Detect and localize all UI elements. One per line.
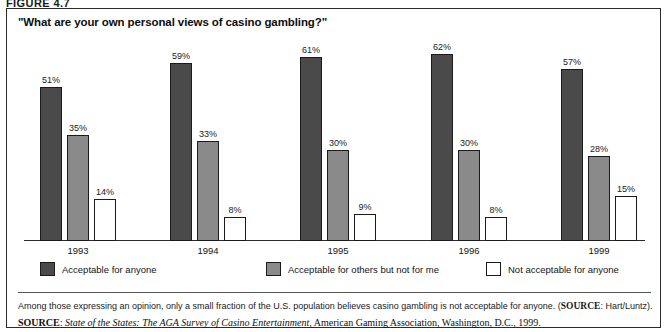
legend-swatch-icon xyxy=(266,262,281,276)
bar-value-label: 51% xyxy=(42,75,60,85)
bar-group-1993: 51%35%14%1993 xyxy=(40,33,116,241)
bar-value-label: 62% xyxy=(433,42,451,52)
figure-frame: "What are your own personal views of cas… xyxy=(6,8,661,328)
legend-swatch-icon xyxy=(40,262,55,276)
bar-rect xyxy=(588,156,610,241)
source-title-italic: State of the States: The AGA Survey of C… xyxy=(65,317,309,328)
bar-group-1994: 59%33%8%1994 xyxy=(170,33,246,241)
bar-value-label: 28% xyxy=(590,144,608,154)
bar-rect xyxy=(94,199,116,241)
bar-rect xyxy=(224,217,246,241)
bar-rect xyxy=(197,141,219,241)
bar-value-label: 30% xyxy=(460,138,478,148)
bar-value-label: 59% xyxy=(172,51,190,61)
footnote-source-caps: SOURCE xyxy=(561,301,601,311)
bar-1995-series-0: 61% xyxy=(300,33,322,241)
bar-1994-series-1: 33% xyxy=(197,33,219,241)
bar-value-label: 61% xyxy=(302,45,320,55)
footnote-body: Among those expressing an opinion, only … xyxy=(18,301,561,311)
bar-1996-series-1: 30% xyxy=(458,33,480,241)
bar-rect xyxy=(40,87,62,241)
bar-group-1996: 62%30%8%1996 xyxy=(431,33,507,241)
bar-1999-series-2: 15% xyxy=(615,33,637,241)
bar-rect xyxy=(300,57,322,241)
x-axis-tick-label: 1995 xyxy=(300,245,376,256)
legend-label: Not acceptable for anyone xyxy=(508,264,619,275)
bar-1993-series-1: 35% xyxy=(67,33,89,241)
x-axis-tick-label: 1994 xyxy=(170,245,246,256)
bar-rect xyxy=(561,69,583,241)
bar-value-label: 8% xyxy=(228,205,241,215)
legend-item-1: Acceptable for others but not for me xyxy=(266,262,439,276)
bar-group-1999: 57%28%15%1999 xyxy=(561,33,637,241)
x-axis-tick-label: 1993 xyxy=(40,245,116,256)
bar-rect xyxy=(67,135,89,241)
source-caps: SOURCE xyxy=(18,317,60,328)
bar-group-1995: 61%30%9%1995 xyxy=(300,33,376,241)
source-rest: , American Gaming Association, Washingto… xyxy=(309,317,541,328)
bar-value-label: 14% xyxy=(96,187,114,197)
legend-item-0: Acceptable for anyone xyxy=(40,262,157,276)
bar-value-label: 57% xyxy=(563,57,581,67)
bar-1993-series-0: 51% xyxy=(40,33,62,241)
legend-swatch-icon xyxy=(486,262,501,276)
bar-value-label: 9% xyxy=(358,202,371,212)
bar-rect xyxy=(458,150,480,241)
bar-1994-series-2: 8% xyxy=(224,33,246,241)
bar-rect xyxy=(485,217,507,241)
source-citation: SOURCE: State of the States: The AGA Sur… xyxy=(18,317,658,329)
bar-chart-plot-area: 51%35%14%199359%33%8%199461%30%9%199562%… xyxy=(18,33,651,241)
bar-rect xyxy=(170,63,192,241)
bar-1999-series-1: 28% xyxy=(588,33,610,241)
bar-value-label: 30% xyxy=(329,138,347,148)
bar-value-label: 33% xyxy=(199,129,217,139)
chart-legend: Acceptable for anyoneAcceptable for othe… xyxy=(18,262,651,284)
bar-value-label: 15% xyxy=(617,184,635,194)
bar-1996-series-0: 62% xyxy=(431,33,453,241)
bar-rect xyxy=(615,196,637,241)
legend-label: Acceptable for others but not for me xyxy=(288,264,439,275)
bar-1994-series-0: 59% xyxy=(170,33,192,241)
bar-1999-series-0: 57% xyxy=(561,33,583,241)
footnote-text: Among those expressing an opinion, only … xyxy=(18,300,654,312)
bar-rect xyxy=(327,150,349,241)
chart-title: "What are your own personal views of cas… xyxy=(18,16,327,28)
legend-label: Acceptable for anyone xyxy=(62,264,157,275)
bar-value-label: 35% xyxy=(69,123,87,133)
bar-value-label: 8% xyxy=(489,205,502,215)
bar-1995-series-2: 9% xyxy=(354,33,376,241)
footnote-source-rest: : Hart/Luntz). xyxy=(600,301,652,311)
x-axis-tick-label: 1999 xyxy=(561,245,637,256)
bar-1993-series-2: 14% xyxy=(94,33,116,241)
bar-rect xyxy=(354,214,376,241)
bar-rect xyxy=(431,54,453,241)
legend-item-2: Not acceptable for anyone xyxy=(486,262,619,276)
footer-divider xyxy=(18,292,651,293)
bar-1996-series-2: 8% xyxy=(485,33,507,241)
x-axis-tick-label: 1996 xyxy=(431,245,507,256)
bar-1995-series-1: 30% xyxy=(327,33,349,241)
